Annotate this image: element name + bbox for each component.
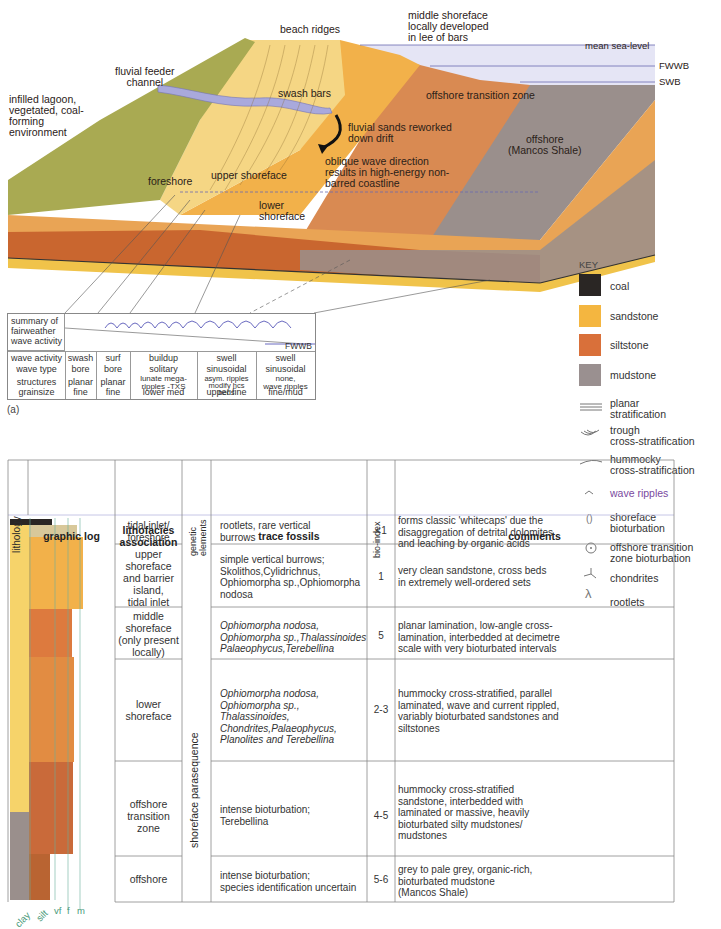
grain-label-vf: vf (54, 905, 61, 916)
trace-row-1: simple vertical burrows; Skolithos,Cylid… (220, 554, 375, 600)
bio-row-4: 4-5 (367, 810, 395, 822)
bio-row-5: 5-6 (367, 874, 395, 886)
comments-row-1: very clean sandstone, cross beds in extr… (398, 565, 673, 588)
bio-row-2: 5 (367, 630, 395, 642)
comments-row-4: hummocky cross-stratified sandstone, int… (398, 784, 673, 842)
facies-row-4: offshoretransitionzone (115, 798, 182, 834)
trace-row-4: intense bioturbation; Terebellina (220, 804, 375, 827)
header-genetic-elements: geneticelements (188, 519, 208, 556)
comments-row-3: hummocky cross-stratified, parallel lami… (398, 688, 673, 734)
facies-row-3: lowershoreface (115, 698, 182, 722)
comments-row-0: forms classic 'whitecaps' due the disagg… (398, 515, 673, 550)
trace-row-3: Ophiomorpha nodosa, Ophiomorpha sp., Tha… (220, 688, 375, 746)
bio-row-0: <1 (367, 525, 395, 537)
facies-table: lithology graphic log lithofaciesassocia… (8, 508, 669, 901)
grain-label-f: f (67, 905, 70, 916)
comments-row-2: planar lamination, low-angle cross- lami… (398, 620, 673, 655)
header-lithology: lithology (11, 516, 22, 553)
bio-row-1: 1 (367, 571, 395, 583)
genetic-element-label: shoreface parasequence (188, 732, 200, 848)
bio-row-3: 2-3 (367, 704, 395, 716)
trace-row-0: rootlets, rare vertical burrows (220, 520, 370, 543)
trace-row-5: intense bioturbation; species identifica… (220, 870, 375, 893)
facies-row-5: offshore (115, 874, 182, 886)
trace-row-2: Ophiomorpha nodosa, Ophiomorpha sp.,Thal… (220, 620, 375, 655)
facies-row-0: tidal inlet/foreshore (115, 520, 182, 543)
facies-row-1: uppershorefaceand barrierisland,tidal in… (115, 548, 182, 608)
facies-row-2: middleshoreface(only presentlocally) (115, 610, 182, 658)
grain-label-m: m (77, 905, 85, 916)
comments-row-5: grey to pale grey, organic-rich, bioturb… (398, 864, 673, 899)
header-graphic-log: graphic log (28, 530, 115, 542)
